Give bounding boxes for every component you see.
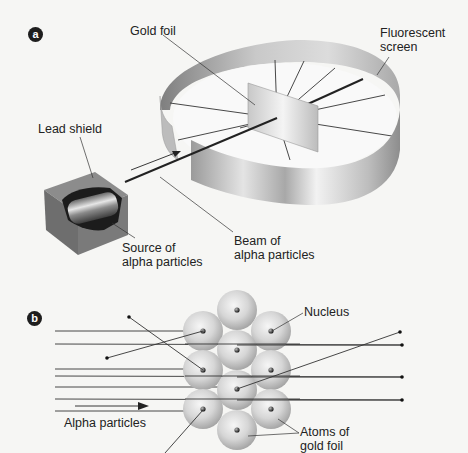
label-source-of-alpha-particles: Source of alpha particles	[122, 241, 203, 269]
rutherford-experiment-diagram: a b Gold foil Fluorescent screen Lead sh…	[0, 0, 468, 453]
panel-a-apparatus	[44, 35, 400, 255]
leader-lead-shield	[80, 137, 93, 178]
panel-b-badge: b	[27, 311, 42, 326]
lead-shield-box	[44, 172, 128, 255]
beam-arrow-line	[131, 153, 175, 170]
label-nucleus: Nucleus	[304, 305, 349, 319]
label-beam-of-alpha-particles: Beam of alpha particles	[234, 234, 315, 262]
panel-a-badge: a	[28, 27, 43, 42]
label-lead-shield: Lead shield	[38, 122, 102, 136]
label-fluorescent-screen: Fluorescent screen	[380, 26, 445, 54]
label-gold-foil: Gold foil	[130, 24, 176, 38]
direction-arrow-head	[138, 402, 149, 410]
gold-atoms	[183, 290, 291, 450]
label-atoms-of-gold-foil: Atoms of gold foil	[300, 425, 349, 453]
label-alpha-particles: Alpha particles	[64, 416, 146, 430]
